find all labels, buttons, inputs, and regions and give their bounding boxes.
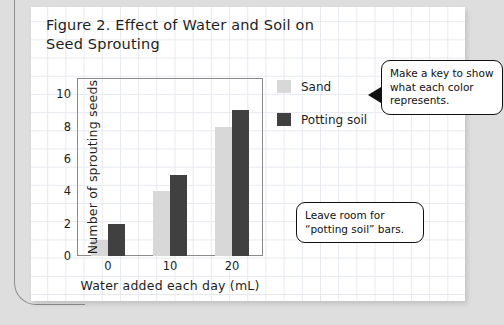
y-tick-label: 8 bbox=[64, 120, 71, 134]
bar-group-1 bbox=[139, 78, 201, 256]
x-axis-title: Water added each day (mL) bbox=[63, 278, 277, 293]
callout-arrow-icon bbox=[368, 87, 381, 103]
annotation-callout-key: Make a key to show what each color repre… bbox=[381, 60, 503, 115]
bar-potting-soil-1 bbox=[170, 175, 187, 256]
chart-legend: Sand Potting soil bbox=[277, 80, 367, 146]
bar-sand-2 bbox=[215, 127, 232, 256]
y-tick-label: 4 bbox=[64, 184, 71, 198]
legend-label-potting-soil: Potting soil bbox=[301, 113, 367, 127]
bar-potting-soil-2 bbox=[232, 110, 249, 256]
y-axis-title: Number of sprouting seeds bbox=[85, 80, 100, 255]
annotation-text: Make a key to show what each color repre… bbox=[390, 67, 494, 106]
legend-swatch-sand-icon bbox=[277, 80, 291, 93]
y-tick-label: 6 bbox=[64, 152, 71, 166]
y-tick-label: 2 bbox=[64, 217, 71, 231]
bar-group-2 bbox=[201, 78, 263, 256]
page-title: Figure 2. Effect of Water and Soil on Se… bbox=[46, 16, 346, 54]
notebook-page: Figure 2. Effect of Water and Soil on Se… bbox=[0, 0, 504, 325]
bar-potting-soil-0 bbox=[108, 224, 125, 256]
y-axis-ticks: 0 2 4 6 8 10 bbox=[53, 78, 73, 256]
bar-sand-1 bbox=[153, 191, 170, 256]
legend-item-potting-soil: Potting soil bbox=[277, 113, 367, 126]
bar-series-container bbox=[77, 78, 263, 256]
y-tick-label: 0 bbox=[64, 249, 71, 263]
x-axis-ticks: 0 10 20 bbox=[77, 259, 263, 273]
annotation-text: Leave room for “potting soil” bars. bbox=[305, 209, 404, 235]
annotation-callout-room: Leave room for “potting soil” bars. bbox=[296, 202, 424, 243]
legend-label-sand: Sand bbox=[301, 80, 331, 94]
legend-item-sand: Sand bbox=[277, 80, 367, 93]
legend-swatch-potting-soil-icon bbox=[277, 113, 291, 126]
x-tick-label: 20 bbox=[201, 259, 263, 273]
x-tick-label: 10 bbox=[139, 259, 201, 273]
y-tick-label: 10 bbox=[56, 87, 71, 101]
x-tick-label: 0 bbox=[77, 259, 139, 273]
bar-chart: 0 2 4 6 8 10 Number of sprouting seeds 0… bbox=[77, 78, 263, 256]
